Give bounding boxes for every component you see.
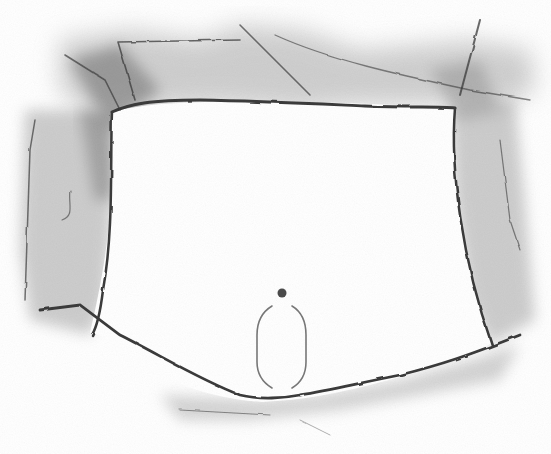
sketch-canvas: abdominal opening with surrounding tissu…: [0, 0, 551, 454]
navel: [278, 289, 287, 298]
sketch-illustration: [0, 0, 551, 454]
